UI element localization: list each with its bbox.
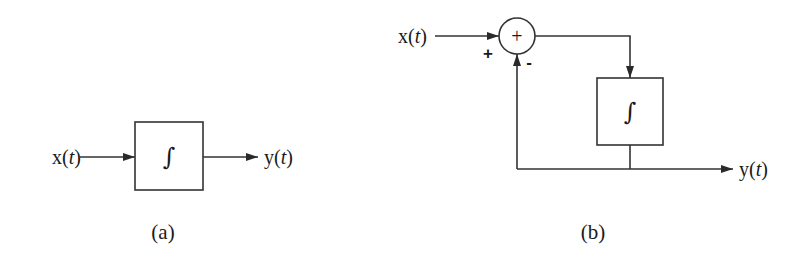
- input-signal-label-b: x(t): [398, 25, 427, 48]
- integral-icon-a: ∫: [163, 143, 176, 171]
- output-signal-label-a: y(t): [264, 146, 293, 169]
- caption-b: (b): [581, 220, 606, 244]
- caption-a: (a): [151, 220, 174, 244]
- minus-sign-label: -: [526, 53, 532, 72]
- input-signal-label-a: x(t): [52, 146, 81, 169]
- integral-icon-b: ∫: [624, 98, 637, 126]
- forward-path-arrow: [535, 36, 630, 78]
- plus-icon: +: [511, 25, 522, 47]
- block-diagrams: x(t) ∫ y(t) (a) x(t) + - + ∫ y(t) (b): [0, 0, 811, 255]
- diagram-a: x(t) ∫ y(t) (a): [52, 122, 293, 244]
- plus-sign-label: +: [483, 44, 493, 63]
- output-signal-label-b: y(t): [739, 158, 768, 181]
- diagram-b: x(t) + - + ∫ y(t) (b): [398, 18, 768, 244]
